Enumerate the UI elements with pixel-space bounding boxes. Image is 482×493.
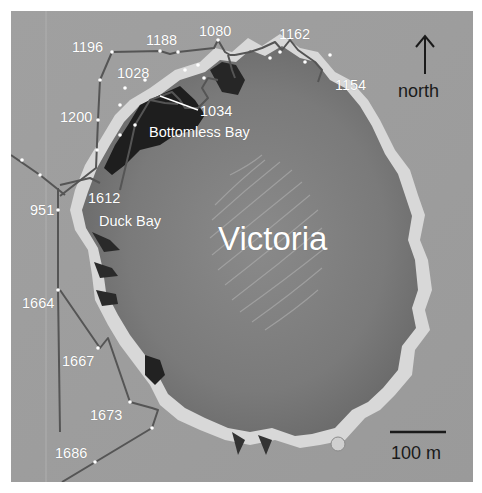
sol-label-1667: 1667 xyxy=(62,354,94,369)
sol-label-1612: 1612 xyxy=(88,191,120,206)
crater-name-label: Victoria xyxy=(218,222,327,255)
bottomless-bay-label: Bottomless Bay xyxy=(149,125,250,140)
sol-label-1188: 1188 xyxy=(146,33,177,48)
sol-label-1200: 1200 xyxy=(60,110,92,125)
sol-label-1154: 1154 xyxy=(335,78,366,93)
north-label: north xyxy=(398,82,439,100)
sol-label-1664: 1664 xyxy=(22,296,54,311)
sol-label-1028: 1028 xyxy=(117,66,149,81)
small-crater xyxy=(331,437,345,451)
scale-bar-label: 100 m xyxy=(391,444,441,462)
sol-label-1034: 1034 xyxy=(200,104,232,119)
sol-label-1196: 1196 xyxy=(72,40,103,55)
sol-label-1162: 1162 xyxy=(279,27,310,42)
sol-label-1686: 1686 xyxy=(55,446,87,461)
sol-label-1080: 1080 xyxy=(199,24,231,39)
duck-bay-label: Duck Bay xyxy=(99,214,161,229)
sol-label-951: 951 xyxy=(30,203,54,218)
sol-label-1673: 1673 xyxy=(90,408,122,423)
